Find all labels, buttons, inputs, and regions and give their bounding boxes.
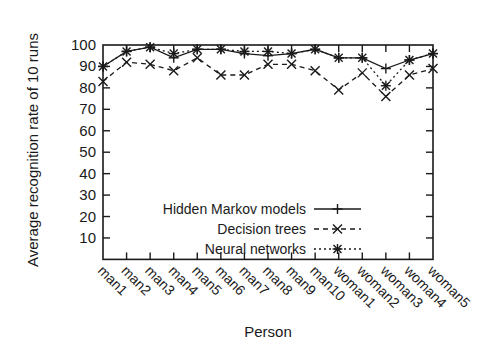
legend-item: Decision trees bbox=[217, 221, 361, 237]
y-tick-label: 100 bbox=[71, 36, 96, 53]
data-point bbox=[381, 81, 391, 91]
data-point bbox=[405, 71, 414, 80]
data-point bbox=[310, 44, 320, 54]
series-neural-networks bbox=[98, 42, 438, 91]
legend: Hidden Markov modelsDecision treesNeural… bbox=[163, 201, 361, 257]
data-point bbox=[428, 49, 438, 59]
legend-label: Hidden Markov models bbox=[163, 201, 306, 217]
data-point bbox=[287, 60, 296, 69]
data-point bbox=[122, 58, 131, 67]
data-point bbox=[404, 55, 414, 65]
y-tick-label: 80 bbox=[79, 79, 96, 96]
data-point bbox=[263, 46, 273, 56]
axes: 102030405060708090100man1man2man3man4man… bbox=[71, 36, 474, 311]
data-point bbox=[334, 53, 344, 63]
legend-label: Neural networks bbox=[205, 241, 306, 257]
legend-item: Hidden Markov models bbox=[163, 201, 361, 217]
line-chart: 102030405060708090100man1man2man3man4man… bbox=[0, 0, 502, 358]
y-tick-label: 50 bbox=[79, 143, 96, 160]
data-point bbox=[358, 68, 367, 77]
data-point bbox=[334, 86, 343, 95]
y-tick-label: 90 bbox=[79, 57, 96, 74]
y-tick-label: 10 bbox=[79, 229, 96, 246]
y-tick-label: 40 bbox=[79, 165, 96, 182]
x-axis-title: Person bbox=[244, 323, 292, 340]
data-point bbox=[287, 49, 297, 59]
data-point bbox=[169, 49, 179, 59]
data-point bbox=[146, 60, 155, 69]
y-axis-title: Average recognition rate of 10 runs bbox=[24, 33, 41, 267]
legend-marker bbox=[333, 204, 343, 214]
y-tick-label: 60 bbox=[79, 122, 96, 139]
data-point bbox=[193, 53, 202, 62]
series-layer bbox=[98, 42, 438, 101]
data-point bbox=[216, 44, 226, 54]
data-point bbox=[239, 46, 249, 56]
y-tick-label: 20 bbox=[79, 208, 96, 225]
data-point bbox=[122, 46, 132, 56]
data-point bbox=[98, 61, 108, 71]
legend-marker bbox=[333, 244, 343, 254]
data-point bbox=[381, 92, 390, 101]
data-point bbox=[264, 60, 273, 69]
y-tick-label: 30 bbox=[79, 186, 96, 203]
data-point bbox=[357, 53, 367, 63]
data-point bbox=[311, 66, 320, 75]
data-point bbox=[145, 42, 155, 52]
y-tick-label: 70 bbox=[79, 100, 96, 117]
data-point bbox=[192, 44, 202, 54]
legend-label: Decision trees bbox=[217, 221, 306, 237]
data-point bbox=[169, 66, 178, 75]
data-point bbox=[381, 64, 391, 74]
legend-item: Neural networks bbox=[205, 241, 361, 257]
